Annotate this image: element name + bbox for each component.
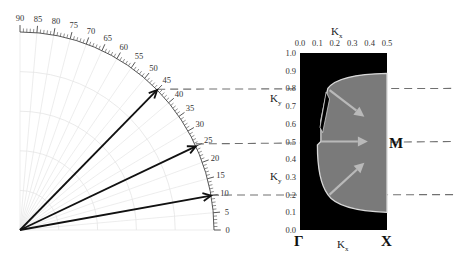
minor-tick	[152, 83, 154, 86]
angle-label: 60	[120, 42, 129, 52]
panel-gray-region	[317, 73, 387, 212]
minor-tick	[201, 158, 204, 159]
angle-label: 70	[87, 26, 96, 36]
ky-tick-label: 0.5	[285, 137, 296, 147]
minor-tick	[162, 93, 165, 95]
minor-tick	[137, 69, 139, 72]
minor-tick	[186, 126, 189, 128]
minor-tick	[134, 67, 136, 70]
minor-tick	[194, 142, 197, 144]
angle-label: 80	[52, 16, 61, 26]
brillouin-zone-panel: 0.00.10.20.30.40.5 0.00.10.20.30.40.50.6…	[270, 25, 403, 253]
ky-tick-label: 0.6	[285, 119, 296, 129]
polar-arrows	[20, 90, 211, 230]
kx-tick-label: 0.1	[312, 38, 323, 48]
minor-tick	[177, 112, 180, 114]
minor-tick	[206, 171, 209, 172]
angle-label: 85	[34, 14, 43, 24]
minor-tick	[190, 132, 193, 134]
minor-tick	[147, 78, 149, 81]
major-tick	[169, 98, 174, 102]
minor-tick	[209, 185, 212, 186]
ky-tick-labels: 0.00.10.20.30.40.50.60.70.80.91.0	[285, 48, 296, 235]
minor-tick	[166, 98, 169, 100]
minor-tick	[160, 90, 163, 92]
kx-tick-label: 0.3	[347, 38, 358, 48]
minor-tick	[108, 50, 110, 53]
ky-tick-label: 0.7	[285, 101, 296, 111]
minor-tick	[83, 39, 84, 42]
kx-tick-label: 0.5	[382, 38, 393, 48]
minor-tick	[206, 174, 209, 175]
minor-tick	[99, 46, 100, 49]
minor-tick	[126, 61, 128, 64]
ky-tick-label: 1.0	[285, 48, 296, 58]
major-tick	[54, 28, 55, 35]
major-tick	[145, 73, 149, 78]
minor-tick	[96, 44, 97, 47]
minor-tick	[203, 164, 206, 165]
m-point-label: M	[389, 135, 403, 151]
major-tick	[202, 160, 208, 162]
minor-tick	[199, 151, 202, 152]
angle-label: 35	[186, 103, 195, 113]
ky-tick-label: 0.4	[285, 154, 296, 164]
angle-label: 50	[149, 63, 158, 73]
major-tick	[131, 62, 135, 68]
ky-tick-label: 0.3	[285, 172, 296, 182]
minor-tick	[93, 43, 94, 46]
major-tick	[86, 37, 88, 44]
minor-tick	[210, 192, 213, 193]
grid-radial-line	[20, 39, 70, 230]
angle-label: 10	[220, 188, 229, 198]
gamma-point-label: Γ	[294, 233, 304, 249]
minor-tick	[197, 148, 200, 149]
minor-tick	[181, 117, 184, 119]
minor-tick	[105, 49, 107, 52]
major-tick	[70, 32, 72, 39]
minor-tick	[128, 63, 130, 66]
kx-tick-labels: 0.00.10.20.30.40.5	[295, 38, 393, 48]
x-point-label: X	[381, 233, 392, 249]
angle-label: 90	[16, 13, 25, 23]
kx-tick-label: 0.0	[295, 38, 306, 48]
angle-label: 30	[196, 119, 205, 129]
angle-label: 0	[225, 225, 229, 235]
minor-tick	[77, 37, 78, 40]
minor-tick	[173, 106, 176, 108]
major-tick	[213, 212, 220, 213]
angle-label: 15	[216, 170, 225, 180]
minor-tick	[193, 138, 196, 140]
angle-arrow	[20, 193, 211, 230]
left-axis-label-upper: Ky	[270, 92, 282, 107]
minor-tick	[111, 52, 113, 55]
major-tick	[207, 177, 214, 179]
ky-tick-label: 0.1	[285, 207, 296, 217]
angle-label: 40	[175, 89, 184, 99]
minor-tick	[205, 168, 208, 169]
minor-tick	[185, 123, 188, 125]
minor-tick	[210, 188, 213, 189]
minor-tick	[67, 34, 68, 37]
figure: 051015202530354045505560657075808590 0.0…	[0, 0, 460, 262]
grid-radial-line	[20, 33, 37, 230]
minor-tick	[50, 31, 51, 35]
major-tick	[179, 112, 185, 116]
angle-label: 65	[103, 33, 112, 43]
minor-tick	[80, 38, 81, 41]
minor-tick	[114, 54, 116, 57]
minor-tick	[73, 36, 74, 39]
grid-radial-line	[20, 179, 207, 230]
minor-tick	[120, 57, 122, 60]
minor-tick	[90, 42, 91, 45]
minor-tick	[200, 154, 203, 155]
major-tick	[102, 44, 105, 50]
minor-tick	[155, 85, 157, 88]
minor-tick	[191, 135, 194, 137]
ky-tick-label: 0.2	[285, 190, 296, 200]
minor-tick	[60, 33, 61, 36]
left-axis-label-lower: Ky	[270, 170, 282, 185]
minor-tick	[150, 80, 152, 83]
minor-tick	[212, 198, 215, 199]
kx-tick-label: 0.4	[364, 38, 375, 48]
